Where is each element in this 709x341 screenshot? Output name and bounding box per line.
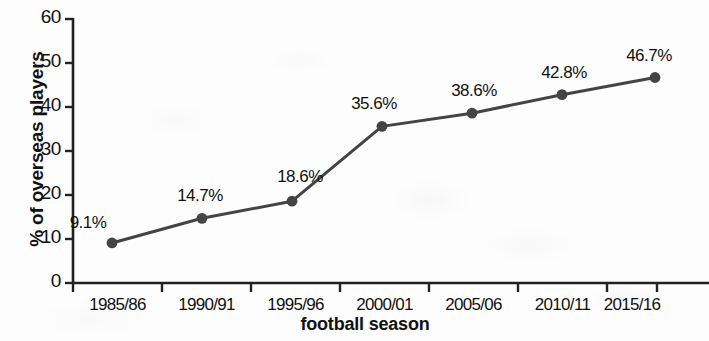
x-tick-label: 2000/01 (337, 295, 433, 315)
y-tick-label: 40 (17, 94, 61, 116)
y-tick-label: 60 (17, 6, 61, 28)
data-point-marker (107, 238, 118, 249)
y-tick-label: 20 (17, 182, 61, 204)
x-tick-label: 2015/16 (584, 295, 680, 315)
x-axis-title: football season (73, 314, 657, 335)
line-chart-plot (0, 0, 709, 341)
data-point-marker (287, 196, 298, 207)
data-point-marker (377, 121, 388, 132)
data-point-label: 35.6% (334, 94, 414, 114)
y-axis (65, 18, 73, 283)
chart-page: % of overseas players football season 01… (0, 0, 709, 341)
x-tick-label: 2005/06 (426, 295, 522, 315)
data-point-label: 42.8% (524, 63, 604, 83)
x-tick-label: 1995/96 (248, 295, 344, 315)
y-tick-label: 0 (17, 270, 61, 292)
y-tick-label: 50 (17, 50, 61, 72)
data-point-marker (197, 213, 208, 224)
y-tick-label: 30 (17, 138, 61, 160)
data-point-marker (650, 72, 661, 83)
data-point-label: 38.6% (434, 81, 514, 101)
data-point-marker (467, 108, 478, 119)
x-tick-label: 1990/91 (159, 295, 255, 315)
data-point-label: 9.1% (48, 213, 128, 233)
data-point-marker (557, 89, 568, 100)
data-point-label: 46.7% (609, 46, 689, 66)
x-tick-label: 1985/86 (70, 295, 166, 315)
data-point-label: 14.7% (160, 186, 240, 206)
data-point-label: 18.6% (260, 167, 340, 187)
x-axis (73, 283, 709, 292)
